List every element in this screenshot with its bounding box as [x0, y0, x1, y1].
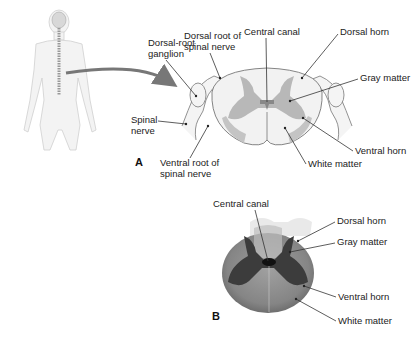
label-spinal-nerve-1: Spinal — [131, 114, 157, 125]
label-dorsal-horn-b: Dorsal horn — [337, 215, 386, 226]
panel-b-letter: B — [212, 310, 220, 322]
label-ventral-root-2: spinal nerve — [160, 168, 211, 179]
label-spinal-nerve-2: nerve — [131, 125, 155, 136]
label-central-canal-b: Central canal — [213, 198, 269, 209]
label-ventral-root-1: Ventral root of — [160, 157, 220, 168]
label-dorsal-root-1: Dorsal root of — [184, 30, 241, 41]
label-white-matter-b: White matter — [338, 315, 392, 326]
label-dorsal-root-ganglion-2: ganglion — [148, 48, 184, 59]
panel-a-letter: A — [135, 156, 143, 168]
label-ventral-horn-a: Ventral horn — [355, 145, 406, 156]
label-gray-matter-b: Gray matter — [337, 236, 387, 247]
label-gray-matter-a: Gray matter — [360, 72, 410, 83]
label-ventral-horn-b: Ventral horn — [338, 291, 389, 302]
label-dorsal-root-2: spinal nerve — [184, 41, 235, 52]
label-central-canal-a: Central canal — [244, 26, 300, 37]
spinal-cord-figure: Dorsal-root ganglion Dorsal root of spin… — [0, 0, 414, 339]
label-dorsal-horn-a: Dorsal horn — [340, 26, 389, 37]
label-white-matter-a: White matter — [308, 158, 362, 169]
spinal-cord-photo — [222, 218, 314, 313]
